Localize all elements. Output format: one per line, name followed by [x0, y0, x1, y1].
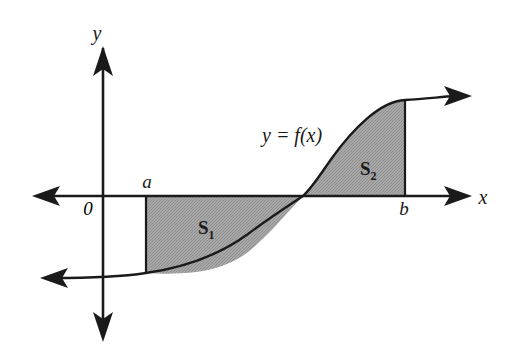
- label-a: a: [142, 171, 152, 192]
- integral-area-diagram: y x 0 a b y = f(x) S1 S2: [0, 0, 516, 361]
- region-label-s1-subscript: 1: [209, 228, 215, 242]
- label-b: b: [399, 198, 409, 219]
- region-label-s2-subscript: 2: [371, 169, 377, 183]
- y-axis-label: y: [91, 22, 102, 45]
- shaded-region-s1: [146, 196, 303, 274]
- x-axis-label: x: [478, 186, 488, 208]
- origin-label: 0: [83, 198, 93, 219]
- function-label: y = f(x): [260, 124, 322, 147]
- shaded-region-s2: [303, 100, 405, 196]
- region-label-s1-base: S: [198, 217, 209, 238]
- region-label-s2-base: S: [360, 158, 371, 179]
- figure-canvas: y x 0 a b y = f(x) S1 S2: [0, 0, 516, 361]
